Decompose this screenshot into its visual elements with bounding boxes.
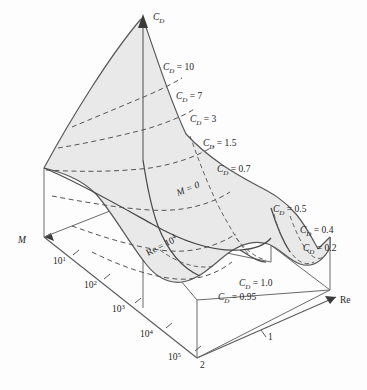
tick-label-mach-2: 2 (200, 360, 205, 370)
reynolds-axis-arrowhead (325, 296, 336, 304)
tick-re-1 (73, 250, 79, 255)
tick-label-re-2: 102 (84, 279, 98, 291)
reynolds-axis-line (197, 297, 336, 358)
figure-text-labels: CD M Re 101 102 103 104 105 2 1 CD = 10 … (17, 12, 351, 370)
tick-mach-1 (261, 330, 266, 337)
cd-surface (44, 19, 330, 282)
mach-axis-label: M (17, 235, 27, 245)
tick-re-3 (135, 298, 141, 303)
label-cd-1p0: CD = 1.0 (239, 278, 273, 291)
label-cd-0p95: CD = 0.95 (218, 292, 256, 305)
cd-axis-label: CD (153, 12, 164, 25)
mach-axis-arrowhead (44, 233, 54, 241)
tick-re-5 (195, 346, 201, 351)
label-cd-7: CD = 7 (176, 91, 203, 104)
figure-svg: CD M Re 101 102 103 104 105 2 1 CD = 10 … (0, 0, 367, 390)
tick-label-re-1: 101 (53, 255, 66, 267)
tick-label-mach-1: 1 (268, 332, 273, 342)
reynolds-axis-label: Re (340, 295, 351, 305)
label-cd-1p5: CD = 1.5 (203, 138, 237, 151)
tick-label-re-3: 103 (112, 303, 126, 315)
tick-label-re-4: 104 (140, 328, 154, 340)
tick-label-re-5: 105 (168, 351, 182, 363)
label-cd-10: CD = 10 (163, 62, 194, 75)
surface-fill-region (44, 19, 330, 282)
tick-re-2 (104, 274, 110, 279)
base-front-right-edge (197, 290, 330, 358)
base-interior-line-c (197, 290, 330, 300)
drag-coefficient-surface-figure: CD M Re 101 102 103 104 105 2 1 CD = 10 … (0, 0, 367, 390)
label-cd-3: CD = 3 (190, 114, 217, 127)
tick-re-4 (166, 323, 172, 328)
